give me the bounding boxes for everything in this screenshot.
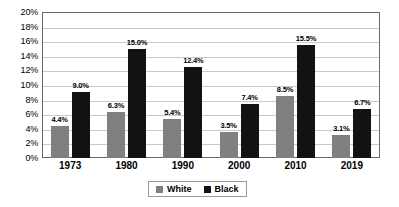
y-axis-tick-label: 0% — [25, 153, 38, 163]
bar-column[interactable]: 3.5% — [220, 12, 238, 158]
chart-legend: WhiteBlack — [148, 181, 247, 197]
bar-value-label: 7.4% — [242, 93, 258, 102]
x-axis-tick-label: 1973 — [59, 160, 81, 171]
legend-swatch-icon — [204, 186, 211, 193]
bar-column[interactable]: 15.0% — [128, 12, 146, 158]
bar-group: 8.5%15.5% — [267, 12, 323, 158]
bar[interactable] — [276, 96, 294, 158]
legend-swatch-icon — [156, 186, 163, 193]
bar[interactable] — [220, 132, 238, 158]
bar-column[interactable]: 5.4% — [163, 12, 181, 158]
y-axis-tick-label: 8% — [25, 95, 38, 105]
legend-item-white[interactable]: White — [156, 184, 192, 194]
bars-layer: 4.4%9.0%6.3%15.0%5.4%12.4%3.5%7.4%8.5%15… — [42, 12, 380, 158]
bar[interactable] — [128, 49, 146, 159]
y-axis: 0%2%4%6%8%10%12%14%16%18%20% — [0, 12, 38, 158]
bar[interactable] — [107, 112, 125, 158]
x-axis: 197319801990200020102019 — [42, 159, 380, 177]
bar[interactable] — [51, 126, 69, 158]
bar-value-label: 3.5% — [221, 121, 237, 130]
bar-value-label: 15.0% — [127, 38, 147, 47]
bar-column[interactable]: 15.5% — [297, 12, 315, 158]
x-axis-tick-label: 2019 — [341, 160, 363, 171]
bar-group: 6.3%15.0% — [98, 12, 154, 158]
bar-column[interactable]: 12.4% — [184, 12, 202, 158]
x-axis-tick-label: 1980 — [115, 160, 137, 171]
bar-column[interactable]: 3.1% — [332, 12, 350, 158]
x-axis-tick-label: 2000 — [228, 160, 250, 171]
x-axis-tick-label: 2010 — [284, 160, 306, 171]
legend-item-black[interactable]: Black — [204, 184, 239, 194]
bar-value-label: 9.0% — [73, 81, 89, 90]
bar-value-label: 4.4% — [52, 115, 68, 124]
legend-label: White — [167, 184, 192, 194]
bar-value-label: 3.1% — [333, 124, 349, 133]
bar-value-label: 5.4% — [164, 108, 180, 117]
bar-chart: 0%2%4%6%8%10%12%14%16%18%20% 4.4%9.0%6.3… — [0, 0, 399, 207]
bar-column[interactable]: 6.3% — [107, 12, 125, 158]
y-axis-tick-label: 14% — [21, 51, 38, 61]
y-axis-tick-label: 10% — [21, 80, 38, 90]
bar[interactable] — [332, 135, 350, 158]
y-axis-tick-label: 18% — [21, 22, 38, 32]
legend-label: Black — [215, 184, 239, 194]
bar-value-label: 8.5% — [277, 85, 293, 94]
bar[interactable] — [353, 109, 371, 158]
bar-column[interactable]: 8.5% — [276, 12, 294, 158]
bar-column[interactable]: 6.7% — [353, 12, 371, 158]
bar-value-label: 6.7% — [354, 98, 370, 107]
bar-group: 5.4%12.4% — [155, 12, 211, 158]
y-axis-tick-label: 4% — [25, 124, 38, 134]
bar-value-label: 12.4% — [183, 56, 203, 65]
y-axis-tick-label: 16% — [21, 36, 38, 46]
bar-group: 3.5%7.4% — [211, 12, 267, 158]
bar[interactable] — [297, 45, 315, 158]
bar-column[interactable]: 9.0% — [72, 12, 90, 158]
y-axis-tick-label: 20% — [21, 7, 38, 17]
x-axis-tick-label: 1990 — [172, 160, 194, 171]
y-axis-tick-label: 2% — [25, 138, 38, 148]
bar-column[interactable]: 4.4% — [51, 12, 69, 158]
bar[interactable] — [163, 119, 181, 158]
bar-column[interactable]: 7.4% — [241, 12, 259, 158]
y-axis-tick-label: 12% — [21, 65, 38, 75]
bar[interactable] — [241, 104, 259, 158]
bar-group: 4.4%9.0% — [42, 12, 98, 158]
bar-value-label: 6.3% — [108, 101, 124, 110]
bar-value-label: 15.5% — [296, 34, 316, 43]
y-axis-tick-label: 6% — [25, 109, 38, 119]
bar[interactable] — [72, 92, 90, 158]
bar[interactable] — [184, 67, 202, 158]
bar-group: 3.1%6.7% — [324, 12, 380, 158]
